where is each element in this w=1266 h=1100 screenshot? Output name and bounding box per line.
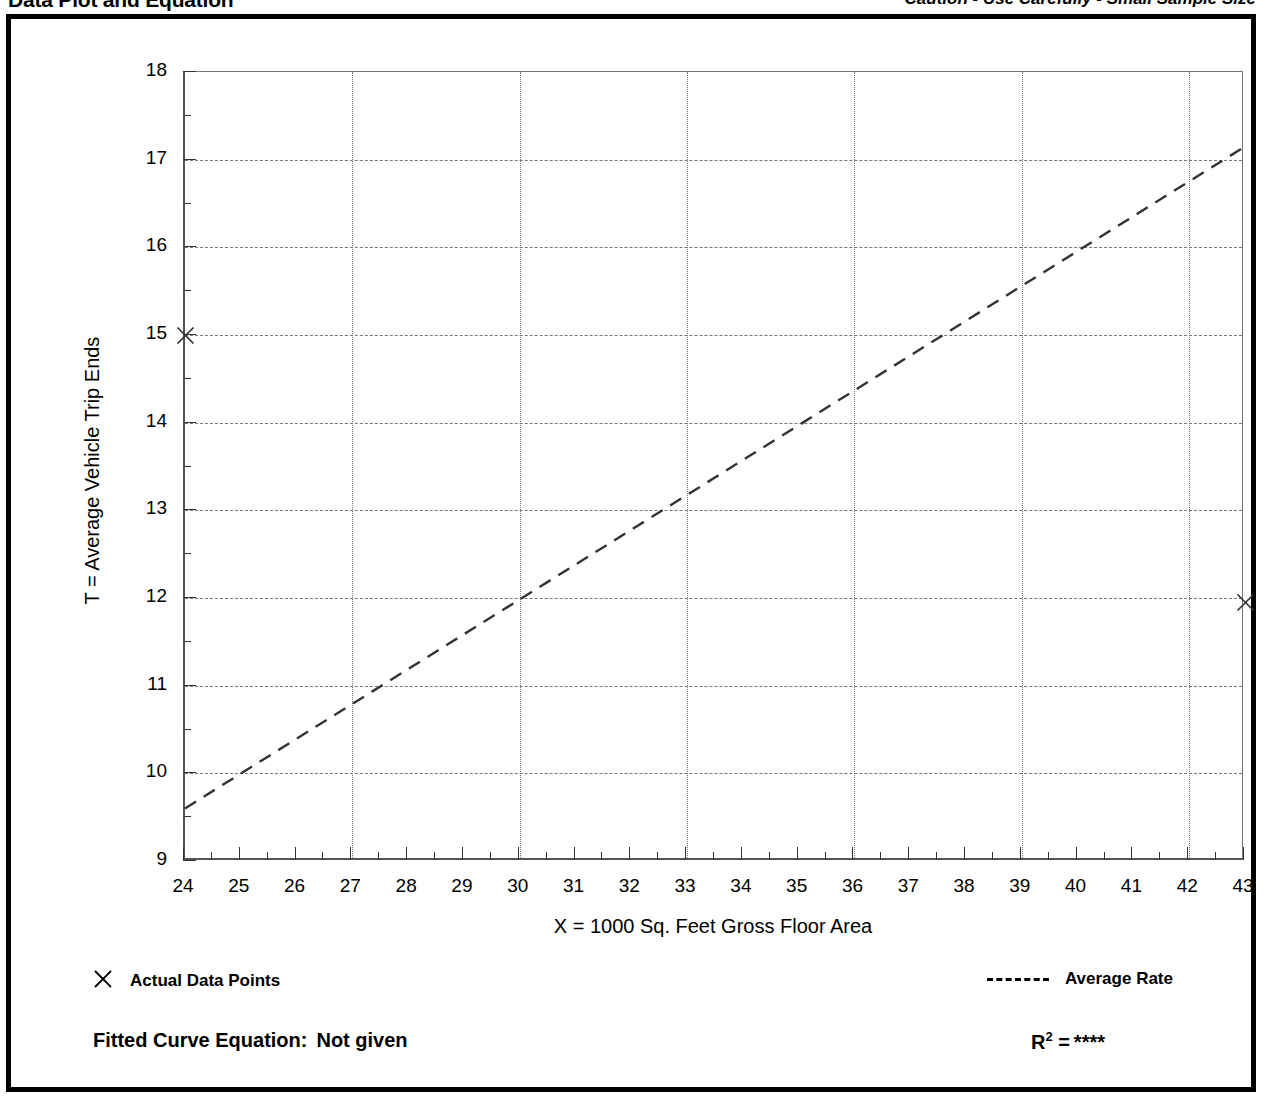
- x-tick-label: 30: [495, 875, 541, 897]
- x-tick-major: [741, 847, 742, 860]
- y-tick-major: [183, 159, 196, 160]
- x-tick-minor: [657, 852, 658, 860]
- x-tick-minor: [490, 852, 491, 860]
- x-cross-icon: [93, 969, 113, 993]
- fitted-curve-equation: Fitted Curve Equation:Not given: [93, 1029, 408, 1052]
- caution-note: Caution - Use Carefully - Small Sample S…: [905, 0, 1256, 9]
- x-tick-label: 32: [606, 875, 652, 897]
- x-tick-label: 33: [662, 875, 708, 897]
- x-tick-major: [406, 847, 407, 860]
- fitted-curve-equation-label: Fitted Curve Equation:: [93, 1029, 307, 1051]
- x-tick-label: 26: [272, 875, 318, 897]
- y-tick-label: 12: [121, 585, 167, 607]
- r-squared-equals: =: [1058, 1031, 1070, 1053]
- x-tick-major: [462, 847, 463, 860]
- x-axis-title: X = 1000 Sq. Feet Gross Floor Area: [183, 915, 1243, 938]
- footer-row: Fitted Curve Equation:Not given R2 =****: [11, 1029, 1251, 1073]
- y-tick-minor: [183, 816, 191, 817]
- y-tick-label: 18: [121, 59, 167, 81]
- r-squared-value: ****: [1074, 1031, 1105, 1053]
- y-tick-minor: [183, 378, 191, 379]
- y-tick-label: 16: [121, 234, 167, 256]
- y-tick-label: 17: [121, 147, 167, 169]
- y-tick-minor: [183, 466, 191, 467]
- y-tick-major: [183, 71, 196, 72]
- x-tick-label: 37: [885, 875, 931, 897]
- x-tick-label: 34: [718, 875, 764, 897]
- chart-frame: 2425262728293031323334353637383940414243…: [6, 14, 1256, 1092]
- x-tick-label: 28: [383, 875, 429, 897]
- y-tick-label: 11: [121, 673, 167, 695]
- x-tick-label: 42: [1164, 875, 1210, 897]
- x-tick-major: [685, 847, 686, 860]
- x-tick-minor: [1159, 852, 1160, 860]
- x-tick-label: 41: [1108, 875, 1154, 897]
- x-tick-major: [908, 847, 909, 860]
- x-tick-major: [1076, 847, 1077, 860]
- y-axis-title: T = Average Vehicle Trip Ends: [81, 71, 104, 871]
- x-tick-label: 25: [216, 875, 262, 897]
- x-tick-minor: [267, 852, 268, 860]
- x-tick-major: [1020, 847, 1021, 860]
- x-tick-major: [1243, 847, 1244, 860]
- legend-label-average-rate: Average Rate: [1065, 969, 1173, 989]
- x-tick-minor: [378, 852, 379, 860]
- y-tick-major: [183, 685, 196, 686]
- x-tick-major: [183, 847, 184, 860]
- x-tick-major: [797, 847, 798, 860]
- x-tick-label: 36: [829, 875, 875, 897]
- series-layer: [185, 72, 1245, 861]
- x-tick-label: 43: [1220, 875, 1266, 897]
- x-tick-label: 27: [327, 875, 373, 897]
- x-tick-minor: [713, 852, 714, 860]
- y-tick-label: 14: [121, 410, 167, 432]
- y-tick-label: 13: [121, 497, 167, 519]
- y-tick-major: [183, 772, 196, 773]
- x-tick-major: [1131, 847, 1132, 860]
- dashed-line-icon: [987, 978, 1049, 981]
- average-rate-line: [185, 147, 1245, 809]
- x-tick-label: 39: [997, 875, 1043, 897]
- r-squared-label: R: [1031, 1031, 1045, 1053]
- x-tick-major: [1187, 847, 1188, 860]
- x-tick-major: [964, 847, 965, 860]
- x-tick-major: [852, 847, 853, 860]
- y-tick-major: [183, 422, 196, 423]
- fitted-curve-equation-value: Not given: [316, 1029, 407, 1051]
- y-tick-label: 10: [121, 760, 167, 782]
- page-header: Data Plot and Equation Caution - Use Car…: [0, 0, 1266, 14]
- x-tick-major: [295, 847, 296, 860]
- y-tick-major: [183, 246, 196, 247]
- x-tick-label: 29: [439, 875, 485, 897]
- x-tick-minor: [211, 852, 212, 860]
- y-tick-label: 9: [121, 848, 167, 870]
- y-tick-minor: [183, 290, 191, 291]
- y-tick-minor: [183, 553, 191, 554]
- x-tick-minor: [1215, 852, 1216, 860]
- x-tick-minor: [825, 852, 826, 860]
- legend: Actual Data Points Average Rate: [11, 969, 1251, 1009]
- page-title: Data Plot and Equation: [8, 0, 233, 12]
- y-tick-label: 15: [121, 322, 167, 344]
- legend-item-actual-data-points: Actual Data Points: [93, 969, 280, 993]
- r-squared-exponent: 2: [1045, 1029, 1052, 1044]
- x-tick-label: 31: [551, 875, 597, 897]
- r-squared: R2 =****: [1031, 1029, 1105, 1054]
- x-tick-major: [574, 847, 575, 860]
- x-tick-major: [518, 847, 519, 860]
- y-tick-minor: [183, 203, 191, 204]
- x-tick-minor: [546, 852, 547, 860]
- y-tick-minor: [183, 115, 191, 116]
- x-tick-minor: [1104, 852, 1105, 860]
- legend-item-average-rate: Average Rate: [987, 969, 1173, 989]
- x-tick-minor: [1048, 852, 1049, 860]
- x-tick-minor: [322, 852, 323, 860]
- x-tick-minor: [769, 852, 770, 860]
- x-tick-major: [239, 847, 240, 860]
- data-point-marker: [1236, 593, 1255, 612]
- x-tick-minor: [434, 852, 435, 860]
- x-tick-minor: [992, 852, 993, 860]
- y-tick-minor: [183, 641, 191, 642]
- x-tick-minor: [880, 852, 881, 860]
- x-tick-minor: [936, 852, 937, 860]
